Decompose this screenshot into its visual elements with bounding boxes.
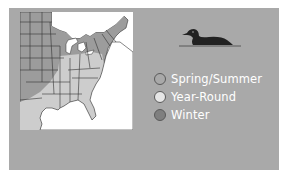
spring-summer-swatch-icon	[154, 73, 166, 85]
legend-label: Spring/Summer	[171, 72, 262, 86]
range-map	[20, 12, 133, 130]
legend-item-winter: Winter	[154, 106, 262, 124]
year-round-swatch-icon	[154, 91, 166, 103]
legend-item-year-round: Year-Round	[154, 88, 262, 106]
legend-item-spring-summer: Spring/Summer	[154, 70, 262, 88]
range-map-panel: Spring/Summer Year-Round Winter	[9, 8, 279, 170]
legend: Spring/Summer Year-Round Winter	[154, 70, 262, 124]
legend-label: Winter	[171, 108, 210, 122]
legend-label: Year-Round	[171, 90, 236, 104]
loon-silhouette-icon	[179, 24, 241, 54]
winter-swatch-icon	[154, 109, 166, 121]
us-map-icon	[20, 12, 133, 130]
